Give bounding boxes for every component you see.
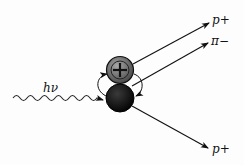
- photodisintegration-diagram: hν p+ π− p+: [0, 0, 244, 165]
- proton-track-upper: [133, 23, 209, 64]
- proton-label-upper: p+: [212, 14, 230, 26]
- exchange-arrow-left: [98, 74, 107, 96]
- pion-track: [132, 43, 208, 86]
- photon-label: hν: [43, 82, 58, 94]
- diagram-canvas: [0, 0, 244, 165]
- neutron-sphere: [106, 84, 134, 112]
- photon-wave: [13, 96, 103, 101]
- proton-sphere: [107, 57, 134, 84]
- pion-label: π−: [211, 35, 229, 47]
- exchange-arrow-right: [134, 74, 142, 96]
- proton-label-lower: p+: [212, 143, 230, 155]
- proton-track-lower: [132, 106, 208, 148]
